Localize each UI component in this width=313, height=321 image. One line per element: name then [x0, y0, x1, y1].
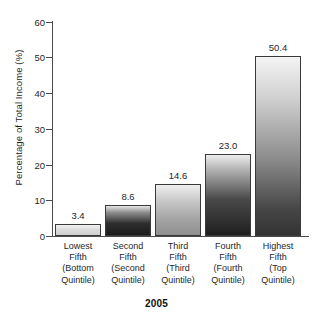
x-category-line-4: Quintile): [101, 275, 155, 286]
x-category-line-3: (Second: [101, 263, 155, 274]
y-tick-10: [46, 200, 52, 201]
x-axis-title: 2005: [0, 298, 313, 309]
x-category-line-2: Fifth: [151, 252, 205, 263]
bar-value-label-lowest-fifth: 3.4: [55, 211, 101, 221]
y-tick-label-40: 40: [19, 89, 45, 99]
x-category-line-1: Fourth: [201, 241, 255, 252]
bar-chart: Percentage of Total Income (%) 0 10 20 3…: [0, 0, 313, 321]
y-axis-title: Percentage of Total Income (%): [13, 18, 24, 218]
y-tick-30: [46, 129, 52, 130]
y-tick-40: [46, 93, 52, 94]
x-category-line-4: Quintile): [251, 275, 305, 286]
x-category-line-1: Highest: [251, 241, 305, 252]
bar-value-label-highest-fifth: 50.4: [255, 43, 301, 53]
y-tick-0: [46, 236, 52, 237]
y-tick-label-60: 60: [19, 18, 45, 28]
y-tick-label-20: 20: [19, 161, 45, 171]
x-category-label-fourth-fifth: Fourth Fifth (Fourth Quintile): [201, 241, 255, 286]
x-category-line-1: Second: [101, 241, 155, 252]
x-category-line-2: Fifth: [251, 252, 305, 263]
x-category-line-3: (Third: [151, 263, 205, 274]
y-tick-label-0: 0: [19, 232, 45, 242]
bar-third-fifth[interactable]: [155, 184, 201, 236]
bar-value-label-second-fifth: 8.6: [105, 192, 151, 202]
bar-second-fifth[interactable]: [105, 205, 151, 236]
x-category-label-highest-fifth: Highest Fifth (Top Quintile): [251, 241, 305, 286]
y-tick-label-50: 50: [19, 53, 45, 63]
x-category-line-2: Fifth: [51, 252, 105, 263]
x-category-label-second-fifth: Second Fifth (Second Quintile): [101, 241, 155, 286]
y-tick-label-10: 10: [19, 196, 45, 206]
y-axis-line: [52, 21, 53, 237]
x-category-line-4: Quintile): [151, 275, 205, 286]
x-category-line-3: (Fourth: [201, 263, 255, 274]
y-tick-50: [46, 57, 52, 58]
bar-lowest-fifth[interactable]: [55, 224, 101, 236]
y-tick-20: [46, 165, 52, 166]
x-category-label-third-fifth: Third Fifth (Third Quintile): [151, 241, 205, 286]
x-category-line-1: Lowest: [51, 241, 105, 252]
x-axis-line: [52, 236, 309, 237]
bar-highest-fifth[interactable]: [255, 56, 301, 236]
y-tick-label-30: 30: [19, 125, 45, 135]
y-tick-60: [46, 22, 52, 23]
x-category-line-1: Third: [151, 241, 205, 252]
x-category-line-4: Quintile): [201, 275, 255, 286]
bar-value-label-fourth-fifth: 23.0: [205, 141, 251, 151]
bar-fourth-fifth[interactable]: [205, 154, 251, 236]
x-category-label-lowest-fifth: Lowest Fifth (Bottom Quintile): [51, 241, 105, 286]
x-category-line-3: (Bottom: [51, 263, 105, 274]
bar-value-label-third-fifth: 14.6: [155, 171, 201, 181]
x-category-line-2: Fifth: [201, 252, 255, 263]
x-category-line-2: Fifth: [101, 252, 155, 263]
x-category-line-3: (Top: [251, 263, 305, 274]
x-category-line-4: Quintile): [51, 275, 105, 286]
